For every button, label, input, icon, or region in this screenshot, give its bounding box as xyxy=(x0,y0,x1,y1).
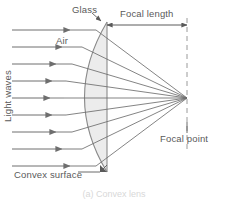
light-waves-label: Light waves xyxy=(2,70,13,122)
convex-surface-label: Convex surface xyxy=(14,169,82,180)
refracted-ray xyxy=(96,98,187,166)
lens-body xyxy=(85,22,108,172)
glass-label: Glass xyxy=(72,4,97,15)
refracted-rays xyxy=(64,30,187,166)
convex-lens-diagram: Glass Air Focal length Focal point Conve… xyxy=(0,0,228,200)
refracted-ray xyxy=(96,30,187,98)
diagram-canvas: Glass Air Focal length Focal point Conve… xyxy=(0,0,228,200)
focal-length-label: Focal length xyxy=(120,8,174,19)
air-label: Air xyxy=(56,35,68,46)
focal-point-label: Focal point xyxy=(160,133,208,144)
figure-caption: (a) Convex lens xyxy=(82,189,146,199)
